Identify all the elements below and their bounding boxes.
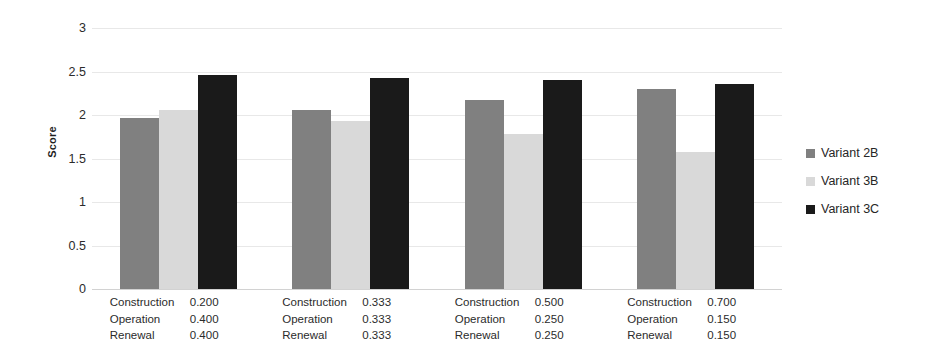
category-label-value: 0.250 (535, 311, 579, 328)
category-labels: Construction0.200Operation0.400Renewal0.… (92, 294, 782, 358)
bar[interactable] (676, 152, 715, 289)
y-axis-tick: 2 (42, 109, 86, 122)
y-axis-tick: 2.5 (42, 65, 86, 78)
category-label-name: Construction (110, 294, 190, 311)
category-label-name: Renewal (455, 327, 535, 344)
category-label-row: Renewal0.150 (627, 327, 751, 344)
category-label-value: 0.700 (707, 294, 751, 311)
legend-swatch-icon (806, 149, 815, 158)
category-label-value: 0.400 (190, 311, 234, 328)
bar[interactable] (504, 134, 543, 289)
category-label-row: Construction0.200 (110, 294, 234, 311)
bar[interactable] (465, 100, 504, 289)
category-label-row: Construction0.333 (282, 294, 406, 311)
bar-group (92, 28, 265, 289)
plot-area (92, 28, 782, 289)
category-label-name: Operation (110, 311, 190, 328)
category-label-name: Operation (282, 311, 362, 328)
category-label-value: 0.333 (362, 327, 406, 344)
legend-item[interactable]: Variant 3B (806, 167, 926, 195)
bar[interactable] (159, 110, 198, 289)
bar[interactable] (543, 80, 582, 289)
category-label-row: Operation0.400 (110, 311, 234, 328)
legend-label: Variant 3C (821, 202, 879, 216)
category-label-name: Construction (282, 294, 362, 311)
y-axis-tick: 1.5 (42, 152, 86, 165)
y-axis-tick: 0.5 (42, 239, 86, 252)
category-label-value: 0.400 (190, 327, 234, 344)
category-label-row: Operation0.250 (455, 311, 579, 328)
category-label-block: Construction0.200Operation0.400Renewal0.… (110, 294, 234, 344)
bar-chart: Score 00.511.522.53 Construction0.200Ope… (0, 0, 926, 364)
category-label-name: Construction (627, 294, 707, 311)
category-label-block: Construction0.700Operation0.150Renewal0.… (627, 294, 751, 344)
category-label-name: Renewal (110, 327, 190, 344)
axis-baseline (92, 289, 782, 290)
bar[interactable] (292, 110, 331, 289)
legend-item[interactable]: Variant 3C (806, 195, 926, 223)
y-axis-tick: 1 (42, 196, 86, 209)
category-label-block: Construction0.333Operation0.333Renewal0.… (282, 294, 406, 344)
bar-group (437, 28, 610, 289)
category-label-value: 0.333 (362, 294, 406, 311)
category-label-row: Renewal0.400 (110, 327, 234, 344)
legend-swatch-icon (806, 177, 815, 186)
category-label-value: 0.150 (707, 327, 751, 344)
category-label-value: 0.500 (535, 294, 579, 311)
category-label-row: Operation0.333 (282, 311, 406, 328)
legend-item[interactable]: Variant 2B (806, 139, 926, 167)
category-label-value: 0.150 (707, 311, 751, 328)
bar-group (610, 28, 783, 289)
category-label-value: 0.200 (190, 294, 234, 311)
category-label-block: Construction0.500Operation0.250Renewal0.… (455, 294, 579, 344)
bar[interactable] (637, 89, 676, 289)
category-label-value: 0.333 (362, 311, 406, 328)
legend-label: Variant 2B (821, 146, 878, 160)
category-label-name: Renewal (627, 327, 707, 344)
category-label-row: Renewal0.250 (455, 327, 579, 344)
category-label-name: Operation (627, 311, 707, 328)
category-label-name: Construction (455, 294, 535, 311)
bar[interactable] (331, 121, 370, 289)
category-label-value: 0.250 (535, 327, 579, 344)
bar[interactable] (370, 78, 409, 289)
bar[interactable] (198, 75, 237, 289)
category-label-row: Operation0.150 (627, 311, 751, 328)
y-axis-tick: 3 (42, 22, 86, 35)
y-axis-tick: 0 (42, 283, 86, 296)
category-label-row: Construction0.700 (627, 294, 751, 311)
category-label-name: Renewal (282, 327, 362, 344)
category-label-name: Operation (455, 311, 535, 328)
bar[interactable] (120, 118, 159, 289)
legend: Variant 2BVariant 3BVariant 3C (806, 139, 926, 223)
y-axis-tick-labels: 00.511.522.53 (22, 0, 86, 364)
bar[interactable] (715, 84, 754, 289)
category-label-row: Construction0.500 (455, 294, 579, 311)
legend-label: Variant 3B (821, 174, 878, 188)
category-label-row: Renewal0.333 (282, 327, 406, 344)
bar-group (265, 28, 438, 289)
legend-swatch-icon (806, 205, 815, 214)
